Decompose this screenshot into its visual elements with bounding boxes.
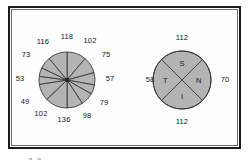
- quadrant-letter-n: N: [196, 76, 201, 85]
- quadrant-letter-s: S: [179, 59, 184, 68]
- quadrant-value-label: 112: [176, 118, 188, 126]
- figure-root: 11810275577998136102495373116 SNIT 11270…: [0, 0, 249, 164]
- quadrant-value-label: 70: [221, 76, 230, 84]
- quadrant-letter-t: T: [163, 76, 168, 85]
- quadrant-letter-i: I: [181, 92, 183, 101]
- quadrant-value-label: 58: [146, 76, 155, 84]
- quadrant-diagram: SNIT: [0, 0, 249, 164]
- quadrant-value-label: 112: [176, 34, 188, 42]
- caption-fragment: a a: [28, 154, 42, 160]
